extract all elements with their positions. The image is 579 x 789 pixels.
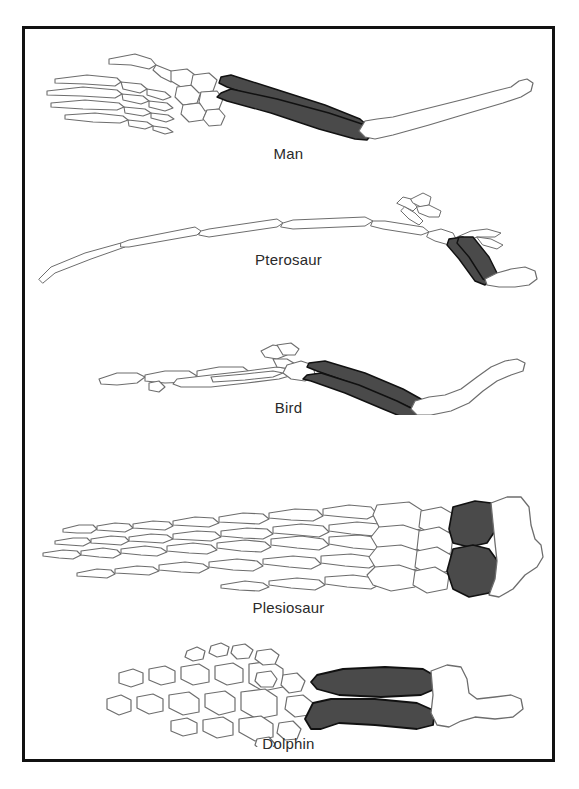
dolphin-limb-drawing — [25, 637, 552, 747]
figure-root: Man — [0, 0, 579, 789]
pterosaur-limb-drawing — [25, 187, 552, 297]
plesiosaur-humerus — [489, 497, 543, 597]
caption-man: Man — [25, 145, 552, 162]
caption-pterosaur: Pterosaur — [25, 251, 552, 268]
plesiosaur-radius — [449, 501, 497, 547]
pterosaur-wing-phalanx-1 — [281, 217, 373, 229]
dolphin-ulna — [305, 699, 435, 729]
caption-plesiosaur: Plesiosaur — [25, 599, 552, 616]
caption-dolphin: Dolphin — [25, 735, 552, 752]
man-limb-drawing — [25, 37, 552, 155]
pterosaur-wing-phalanx-2 — [199, 219, 283, 237]
pterosaur-wing-phalanx-3 — [121, 227, 201, 247]
specimen-dolphin — [25, 637, 552, 747]
specimen-pterosaur — [25, 187, 552, 297]
dolphin-radius — [311, 667, 437, 697]
specimen-plesiosaur — [25, 469, 552, 609]
specimen-man — [25, 37, 552, 155]
man-humerus — [359, 79, 533, 139]
figure-frame: Man — [22, 26, 555, 762]
dolphin-humerus — [431, 665, 523, 727]
plesiosaur-limb-drawing — [25, 469, 552, 609]
caption-bird: Bird — [25, 399, 552, 416]
